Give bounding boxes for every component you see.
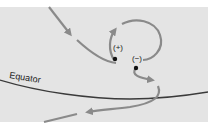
incoming-path-arrow — [49, 7, 70, 34]
diagram-svg: (+) (−) Equator — [0, 0, 208, 128]
negative-charge-dot — [134, 66, 138, 70]
positive-charge-dot — [113, 57, 117, 61]
negative-label: (−) — [132, 54, 142, 63]
equator-label: Equator — [9, 70, 42, 85]
exit-path — [44, 114, 77, 122]
diagram-canvas: (+) (−) Equator — [0, 0, 208, 128]
positive-label: (+) — [113, 43, 123, 52]
